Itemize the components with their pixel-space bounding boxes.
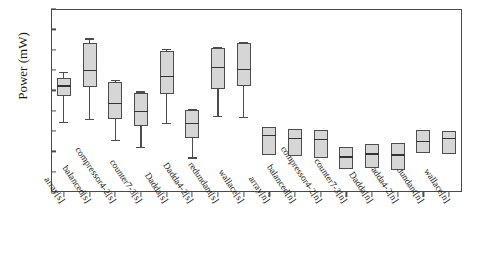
whisker-lower	[89, 87, 90, 119]
whisker-lower	[115, 119, 116, 140]
y-axis-title: Power (mW)	[15, 6, 31, 126]
whisker-cap-upper	[136, 91, 145, 92]
box-iqr	[211, 48, 225, 90]
median-line	[416, 141, 430, 142]
y-tick-mark	[51, 69, 56, 70]
median-line	[391, 154, 405, 155]
median-line	[57, 85, 71, 86]
y-tick-mark	[51, 110, 56, 111]
box-iqr	[288, 129, 302, 156]
whisker-cap-upper	[59, 72, 68, 73]
whisker-cap-lower	[59, 122, 68, 123]
box-iqr	[314, 130, 328, 158]
whisker-lower	[63, 96, 64, 121]
whisker-lower	[217, 89, 218, 115]
median-line	[83, 70, 97, 71]
whisker-cap-lower	[162, 123, 171, 124]
box-iqr	[442, 131, 456, 154]
whisker-cap-upper	[111, 80, 120, 81]
whisker-cap-lower	[111, 140, 120, 141]
median-line	[211, 67, 225, 68]
median-line	[108, 103, 122, 104]
median-line	[185, 123, 199, 124]
median-line	[134, 111, 148, 112]
whisker-lower	[140, 126, 141, 147]
median-line	[288, 138, 302, 139]
y-tick-mark	[51, 8, 56, 9]
median-line	[365, 153, 379, 154]
y-tick-mark	[51, 151, 56, 152]
whisker-cap-lower	[213, 116, 222, 117]
median-line	[237, 69, 251, 70]
box-iqr	[262, 127, 276, 155]
y-tick-mark	[51, 130, 56, 131]
box-iqr	[134, 93, 148, 126]
whisker-cap-lower	[239, 117, 248, 118]
median-line	[262, 135, 276, 136]
median-line	[442, 138, 456, 139]
box-iqr	[339, 147, 353, 168]
y-tick-mark	[51, 90, 56, 91]
boxplot-figure: Power (mW) 2.62.42.22.01.81.61.41.21.00.…	[0, 0, 499, 265]
box-iqr	[108, 82, 122, 119]
median-line	[314, 139, 328, 140]
box-iqr	[57, 78, 71, 96]
whisker-lower	[192, 138, 193, 157]
median-line	[160, 76, 174, 77]
median-line	[339, 156, 353, 157]
y-tick-mark	[51, 29, 56, 30]
y-tick-mark	[51, 49, 56, 50]
whisker-cap-upper	[85, 38, 94, 39]
whisker-cap-lower	[188, 157, 197, 158]
y-tick-mark	[51, 171, 56, 172]
box-iqr	[391, 143, 405, 169]
box-iqr	[237, 43, 251, 87]
whisker-cap-lower	[85, 119, 94, 120]
whisker-cap-upper	[162, 49, 171, 50]
box-iqr	[160, 51, 174, 95]
whisker-lower	[243, 86, 244, 117]
box-iqr	[365, 144, 379, 167]
whisker-lower	[166, 94, 167, 122]
box-iqr	[83, 43, 97, 88]
whisker-cap-lower	[136, 147, 145, 148]
